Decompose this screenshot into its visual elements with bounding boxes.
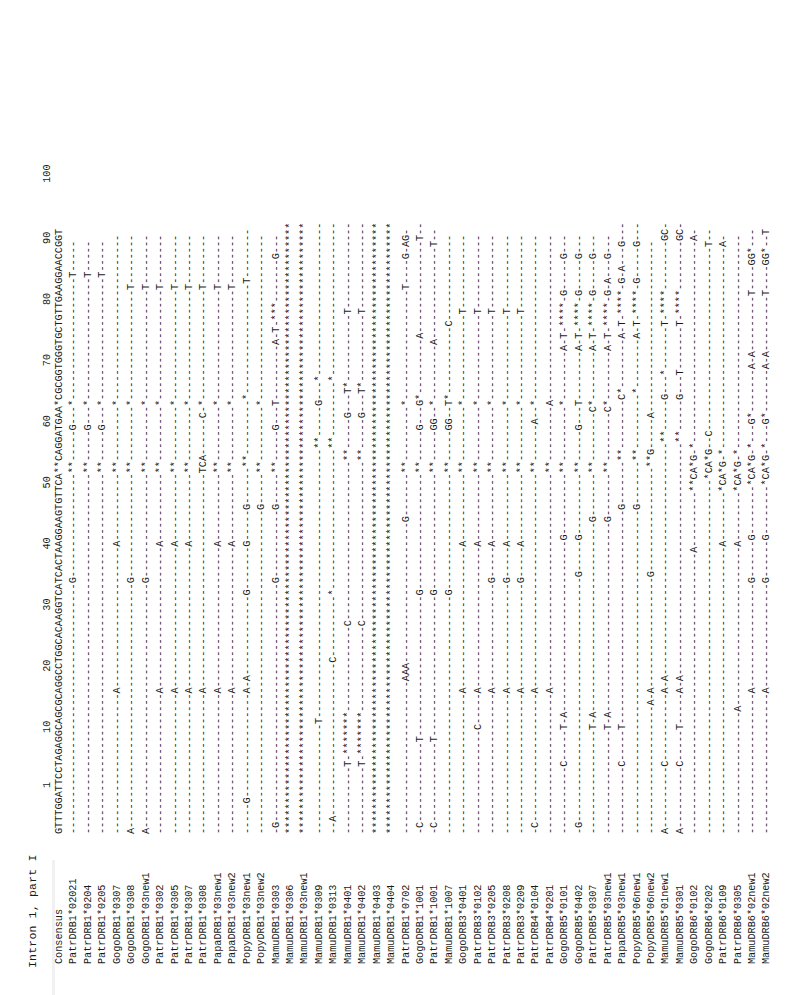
alignment-row: MamuDRB6*02new1-----------------------A-…: [746, 223, 760, 968]
alignment-row: GogoDRB6*0102---------------------------…: [688, 223, 702, 968]
row-label: PopyDRB1*03new2: [255, 834, 269, 968]
row-label: GogoDRB6*0202: [703, 834, 717, 968]
row-sequence: -----------------------A----------------…: [746, 229, 760, 834]
row-label: PapaDRB1*03new2: [226, 834, 240, 968]
alignment-row: PatrDRB3*0205-----------------------A---…: [486, 223, 500, 968]
alignment-row: MamuDRB1*03new1*************************…: [298, 223, 312, 968]
row-sequence: ****************************************…: [371, 223, 385, 834]
alignment-row: PatrDRB1*0305-----------------------A---…: [169, 223, 183, 968]
row-sequence: -C---------------------A----------------…: [529, 235, 543, 834]
alignment-row: PopyDRB1*03new2-------------------------…: [255, 223, 269, 968]
alignment-row: PatrDRB5*03new1-----------------T-A-----…: [602, 223, 616, 968]
alignment-row: GogoDRB5*0402-G-------------------------…: [573, 223, 587, 968]
alignment-row: PatrDRB1*1001-C-------------T-----------…: [428, 223, 442, 968]
alignment-row: PatrDRB1*0702-------------------------AA…: [400, 223, 414, 968]
row-sequence: -----------------------A----------------…: [226, 235, 240, 834]
alignment-row: MamuDRB1*0313--A------------------------…: [327, 223, 341, 968]
sequence-alignment-figure: Intron 1, part I 1 10 20 30 40 50 60 70 …: [22, 8, 772, 968]
row-label: PatrDRB3*0209: [515, 834, 529, 968]
row-sequence: -----------------------A----------------…: [169, 235, 183, 834]
row-sequence: ****************************************…: [298, 223, 312, 834]
row-sequence: -----------------------A----------------…: [515, 235, 529, 834]
row-label: PopyDRB5*06new1: [631, 834, 645, 968]
row-label: MamuDRB1*03new1: [298, 834, 312, 968]
alignment-row: GogoDRB1*0308A--------------------------…: [125, 223, 139, 968]
row-sequence: ****************************************…: [385, 223, 399, 834]
row-label: GogoDRB5*0402: [573, 834, 587, 968]
row-label: PatrDRB1*0702: [400, 834, 414, 968]
alignment-row: PatrDRB3*0209-----------------------A---…: [515, 223, 529, 968]
alignment-row: PapaDRB1*03new2-----------------------A-…: [226, 223, 240, 968]
alignment-row: PatrDRB1*0302-----------------------A---…: [154, 223, 168, 968]
alignment-row: PatrDRB4*0201-----------------------A---…: [544, 223, 558, 968]
row-label: PatrDRB1*0307: [183, 834, 197, 968]
alignment-row: PatrDRB1*0307-----------------------A---…: [183, 223, 197, 968]
row-sequence: -----------------------A----------------…: [544, 235, 558, 834]
row-sequence: -------------------------AAA------------…: [400, 229, 414, 834]
row-sequence: -----------------------A----------------…: [501, 235, 515, 834]
row-label: MamuDRB1*0404: [385, 834, 399, 968]
row-sequence: ----------------------------------------…: [631, 223, 645, 834]
alignment-row: GogoDRB1*0307-----------------------A---…: [111, 223, 125, 968]
row-label: PatrDRB1*0305: [169, 834, 183, 968]
row-label: GogoDRB5*0101: [558, 834, 572, 968]
row-label: MamuDRB1*0402: [356, 834, 370, 968]
alignment-row: PopyDRB1*03new1-----G-----------------A-…: [241, 223, 255, 968]
row-label: MamuDRB1*0401: [342, 834, 356, 968]
row-sequence: -----------------T-A--------------------…: [587, 235, 601, 834]
row-sequence: ----------------------------------------…: [717, 235, 731, 834]
alignment-row: PatrDRB6*0305--------------------A------…: [732, 223, 746, 968]
row-sequence: -----------------------A----------------…: [457, 235, 471, 834]
row-sequence: ----------------------------------------…: [82, 241, 96, 834]
row-sequence: -----------------T-A--------------------…: [602, 235, 616, 834]
alignment-row: PapaDRB5*03new1-----------C-----T-------…: [616, 223, 630, 968]
alignment-row: PopyDRB5*06new2---------------------A-A-…: [645, 223, 659, 968]
row-sequence: -----------------------A----------------…: [212, 235, 226, 834]
consensus-row: Consensus GTTTGGATTCCTAGAGGCAGCGCAGGCCTG…: [53, 223, 67, 968]
alignment-row: PatrDRB5*0307-----------------T-A-------…: [587, 223, 601, 968]
alignment-row: MamuDRB5*0301A----------C-----T-----A-A-…: [674, 223, 688, 968]
alignment-row: MamuDRB1*0306***************************…: [284, 223, 298, 968]
row-sequence: ---------------------A-A----------------…: [645, 241, 659, 834]
row-sequence: ------------------T---------------------…: [313, 223, 327, 834]
row-label: PatrDRB1*0308: [197, 834, 211, 968]
row-sequence: --------------------A-------------------…: [732, 235, 746, 834]
row-sequence: A---------------------------------------…: [125, 235, 139, 834]
row-sequence: ----------------------------------------…: [688, 229, 702, 834]
row-label: MamuDRB1*0306: [284, 834, 298, 968]
row-label: MamuDRB6*02new1: [746, 834, 760, 968]
alignment-row: MamuDRB1*0402-----------T-*******-------…: [356, 223, 370, 968]
row-sequence: -G--------------------------------------…: [573, 235, 587, 834]
alignment-row: GogoDRB6*0202---------------------------…: [703, 223, 717, 968]
row-label: PatrDRB3*0205: [486, 834, 500, 968]
row-sequence: -----------------------A----------------…: [111, 235, 125, 834]
row-label: PatrDRB1*0204: [82, 834, 96, 968]
position-ruler: 1 10 20 30 40 50 60 70 80 90 100: [42, 164, 53, 788]
row-sequence: -----------------------A----------------…: [183, 235, 197, 834]
alignment-row: PatrDRB3*0102-----------------C-----A---…: [472, 223, 486, 968]
row-label: PatrDRB3*0208: [501, 834, 515, 968]
row-label: GogoDRB1*0307: [111, 834, 125, 968]
row-label: PapaDRB5*03new1: [616, 834, 630, 968]
alignment-row: PatrDRB3*0208-----------------------A---…: [501, 223, 515, 968]
row-sequence: -----------C-----T-A--------------------…: [558, 235, 572, 834]
alignment-rows: Consensus GTTTGGATTCCTAGAGGCAGCGCAGGCCTG…: [53, 223, 775, 968]
alignment-row: PatrDRB1*0205---------------------------…: [96, 223, 110, 968]
alignment-row: MamuDRB6*02new2-----------------------A-…: [760, 223, 774, 968]
row-sequence: -C-------------T-----------------------G…: [414, 223, 428, 834]
row-label: PapaDRB1*03new1: [212, 834, 226, 968]
row-label: GogoDRB1*0308: [125, 834, 139, 968]
row-sequence: -----------T-*******--------------C-----…: [356, 223, 370, 834]
row-label: PatrDRB1*1001: [428, 834, 442, 968]
row-label: PatrDRB6*0305: [732, 834, 746, 968]
alignment-row: MamuDRB5*01new1A----------C-----------A-…: [659, 223, 673, 968]
alignment-row: PopyDRB5*06new1-------------------------…: [631, 223, 645, 968]
row-sequence: -----------------------A----------------…: [486, 235, 500, 834]
row-sequence: A----------C-----------A-A--------------…: [659, 223, 673, 834]
row-label: MamuDRB5*01new1: [659, 834, 673, 968]
row-sequence: -C-------------T-----------------------G…: [428, 229, 442, 834]
row-label: PopyDRB5*06new2: [645, 834, 659, 968]
row-label: PatrDRB4*0104: [529, 834, 543, 968]
row-sequence: -----------C-----T----------------------…: [616, 223, 630, 834]
row-label: GogoDRB1*1001: [414, 834, 428, 968]
